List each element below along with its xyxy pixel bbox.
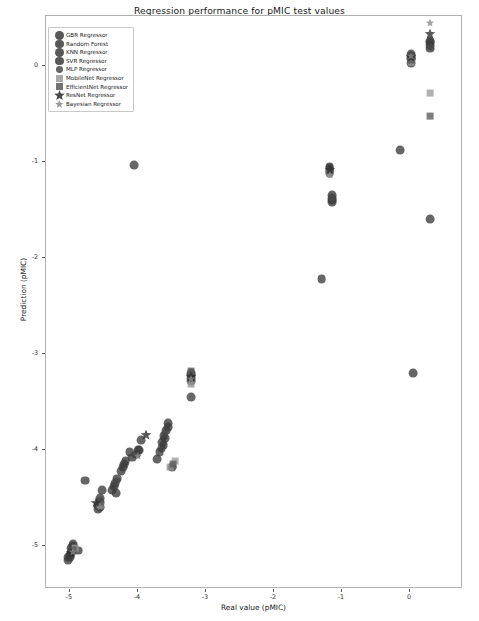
scatter-point [187, 374, 196, 383]
scatter-point [114, 477, 121, 484]
x-tick-label: -3 [202, 593, 208, 601]
legend-item[interactable]: Random Forest [53, 40, 128, 49]
scatter-point [328, 195, 335, 202]
x-tick-label: -5 [66, 593, 72, 601]
legend-item[interactable]: MLP Regressor [53, 65, 128, 74]
scatter-point [186, 393, 195, 402]
legend-item-label: ResNet Regressor [66, 91, 115, 100]
legend-item[interactable]: SVR Regressor [53, 57, 128, 66]
x-axis-label: Real value (pMIC) [45, 603, 462, 612]
scatter-point [170, 461, 177, 468]
legend-marker-icon [53, 74, 66, 83]
x-tick-label: -1 [338, 593, 344, 601]
scatter-point [427, 112, 434, 119]
x-tick [69, 589, 70, 592]
x-tick-label: 0 [407, 593, 411, 601]
scatter-point [425, 29, 436, 40]
x-tick [137, 589, 138, 592]
x-tick-label: -4 [134, 593, 140, 601]
y-tick [42, 449, 45, 450]
y-tick [42, 161, 45, 162]
legend-item-label: MobileNet Regressor [66, 74, 124, 83]
scatter-point [427, 89, 434, 96]
y-tick-label: -1 [16, 157, 38, 165]
y-tick-label: -4 [16, 445, 38, 453]
scatter-point [162, 429, 169, 436]
legend-item[interactable]: KNN Regressor [53, 48, 128, 57]
y-axis-label: Prediction (pMIC) [19, 220, 28, 360]
legend-item-label: GBR Regressor [66, 31, 108, 40]
x-tick [409, 589, 410, 592]
y-tick-label: 0 [16, 61, 38, 69]
scatter-point [68, 547, 77, 556]
legend-item[interactable]: MobileNet Regressor [53, 74, 128, 83]
legend-item-label: SVR Regressor [66, 57, 107, 66]
legend-marker-icon [53, 48, 66, 57]
legend-marker-icon [53, 65, 66, 74]
scatter-point [325, 171, 334, 180]
scatter-point [409, 369, 418, 378]
legend-item[interactable]: Bayesian Regressor [53, 100, 128, 109]
legend-item-label: MLP Regressor [66, 65, 107, 74]
y-tick [42, 65, 45, 66]
scatter-point [426, 18, 435, 27]
scatter-point [96, 503, 105, 512]
legend[interactable]: GBR RegressorRandom ForestKNN RegressorS… [48, 27, 134, 112]
x-tick [273, 589, 274, 592]
x-tick-label: -2 [270, 593, 276, 601]
legend-item-label: EfficientNet Regressor [66, 83, 128, 92]
scatter-point [426, 215, 435, 224]
legend-item[interactable]: GBR Regressor [53, 31, 128, 40]
scatter-point [155, 447, 164, 456]
scatter-point [427, 43, 434, 50]
y-tick [42, 257, 45, 258]
scatter-point [158, 438, 167, 447]
legend-item-label: Random Forest [66, 40, 108, 49]
scatter-point [134, 451, 143, 460]
legend-marker-icon [53, 40, 66, 49]
scatter-point [140, 430, 151, 441]
scatter-point [80, 476, 89, 485]
scatter-point [317, 275, 326, 284]
scatter-point [152, 455, 161, 464]
legend-marker-icon [53, 31, 66, 40]
legend-item-label: Bayesian Regressor [66, 100, 121, 109]
y-tick [42, 353, 45, 354]
legend-item[interactable]: ResNet Regressor [53, 91, 128, 100]
scatter-point [395, 146, 404, 155]
scatter-point [407, 52, 416, 61]
legend-marker-icon [53, 100, 66, 109]
x-tick [205, 589, 206, 592]
figure-canvas: Regression performance for pMIC test val… [0, 0, 479, 621]
scatter-point [120, 460, 129, 469]
scatter-point [130, 160, 139, 169]
legend-marker-icon [53, 91, 66, 100]
legend-item-label: KNN Regressor [66, 48, 108, 57]
y-tick [42, 545, 45, 546]
x-tick [341, 589, 342, 592]
y-tick-label: -5 [16, 541, 38, 549]
legend-marker-icon [53, 57, 66, 66]
